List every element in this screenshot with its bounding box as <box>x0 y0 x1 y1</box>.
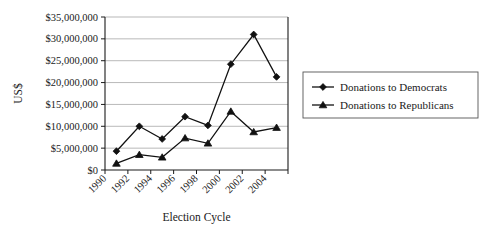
tickmarks-group <box>101 17 288 174</box>
y-axis-tick-label: $20,000,000 <box>46 77 99 88</box>
series-republicans <box>113 108 281 166</box>
y-axis-tick-label: $10,000,000 <box>46 121 99 132</box>
data-point-marker <box>273 73 280 80</box>
y-axis-tick-labels: $0$5,000,000$10,000,000$15,000,000$20,00… <box>46 12 99 176</box>
x-axis-tick-label: 2000 <box>200 173 223 196</box>
data-point-marker <box>227 108 235 114</box>
line-chart: $0$5,000,000$10,000,000$15,000,000$20,00… <box>0 0 485 230</box>
x-axis-tick-labels: 19901992199419961998200020022004 <box>86 172 269 195</box>
legend-box <box>303 72 478 118</box>
x-axis-tick-label: 1992 <box>109 173 132 196</box>
legend-item-label: Donations to Democrats <box>340 81 447 93</box>
x-axis-tick-label: 1990 <box>86 173 109 196</box>
x-axis-title: Election Cycle <box>162 211 230 224</box>
data-series-group <box>113 31 281 166</box>
x-axis-tick-label: 2002 <box>223 173 246 196</box>
x-axis-tick-label: 1998 <box>177 173 200 196</box>
gridlines-group <box>105 17 288 148</box>
chart-canvas: $0$5,000,000$10,000,000$15,000,000$20,00… <box>0 0 485 230</box>
y-axis-tick-label: $35,000,000 <box>46 12 99 23</box>
x-axis-tick-label: 1996 <box>154 173 177 196</box>
x-axis-tick-label: 2004 <box>246 172 269 195</box>
data-point-marker <box>205 122 212 129</box>
data-point-marker <box>136 151 144 157</box>
chart-legend: Donations to DemocratsDonations to Repub… <box>303 72 478 118</box>
x-axis-tick-label: 1994 <box>132 172 155 195</box>
series-democrats <box>113 31 280 155</box>
axis-lines-group <box>105 17 288 170</box>
y-axis-tick-label: $30,000,000 <box>46 33 99 44</box>
y-axis-tick-label: $5,000,000 <box>51 143 98 154</box>
y-axis-tick-label: $0 <box>88 165 99 176</box>
y-axis-tick-label: $15,000,000 <box>46 99 99 110</box>
y-axis-tick-label: $25,000,000 <box>46 55 99 66</box>
data-point-marker <box>273 124 281 130</box>
data-point-marker <box>181 135 189 141</box>
y-axis-title: US$ <box>12 83 24 104</box>
legend-item-label: Donations to Republicans <box>340 99 454 111</box>
